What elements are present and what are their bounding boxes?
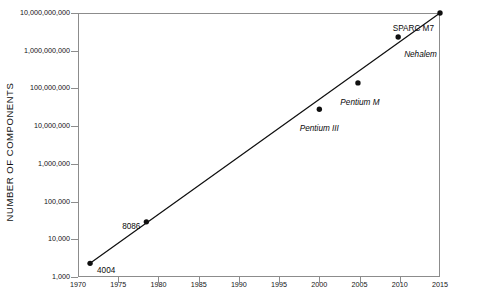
data-point-marker: [317, 107, 322, 112]
data-point-label: 8086: [122, 223, 140, 231]
data-point-label: Pentium M: [340, 99, 379, 107]
trend-line: [90, 13, 440, 263]
data-point-label: 4004: [97, 267, 115, 275]
data-point-label: SPARC M7: [393, 25, 434, 33]
data-point-marker: [395, 34, 400, 39]
data-point-marker: [437, 10, 442, 15]
data-point-marker: [144, 219, 149, 224]
data-point-marker: [355, 80, 360, 85]
semilog-transistor-count-chart: NUMBER OF COMPONENTS 1,00010,000100,0001…: [0, 0, 485, 304]
data-point-label: Pentium III: [300, 125, 339, 133]
data-point-marker: [87, 261, 92, 266]
data-point-label: Nehalem: [404, 51, 437, 59]
data-layer: [0, 0, 485, 304]
